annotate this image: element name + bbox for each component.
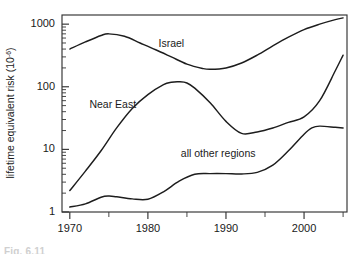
x-tick-label: 1990	[214, 222, 238, 234]
risk-trend-chart: 1101001000 1970198019902000 lifetime equ…	[0, 0, 364, 257]
y-axis-title: lifetime equivalent risk (10-6)	[4, 48, 16, 179]
series-curve-near-east	[70, 55, 343, 190]
x-tick-label: 2000	[292, 222, 316, 234]
x-tick-label: 1980	[136, 222, 160, 234]
series-curve-israel	[70, 18, 343, 69]
series-labels: IsraelNear Eastall other regions	[89, 37, 255, 159]
y-axis: 1101001000	[31, 17, 69, 217]
y-tick-label: 100	[37, 80, 55, 92]
y-tick-label: 1	[49, 205, 55, 217]
series-label-all-other-regions: all other regions	[181, 147, 256, 159]
y-tick-label: 10	[43, 142, 55, 154]
series-label-israel: Israel	[158, 37, 184, 49]
figure-container: 1101001000 1970198019902000 lifetime equ…	[0, 0, 364, 257]
plot-frame	[62, 15, 347, 212]
x-tick-label: 1970	[58, 222, 82, 234]
x-axis: 1970198019902000	[58, 212, 344, 234]
y-tick-label: 1000	[31, 17, 55, 29]
series-curve-all-other-regions	[70, 126, 343, 207]
y-axis-title-suffix: )	[4, 48, 16, 52]
series-label-near-east: Near East	[89, 98, 136, 110]
svg-text:lifetime equivalent risk (10-6: lifetime equivalent risk (10-6)	[4, 48, 16, 179]
series-curves	[70, 18, 343, 207]
y-axis-title-text: lifetime equivalent risk (10	[4, 57, 16, 179]
figure-caption: Fig. 6.11	[4, 246, 45, 254]
